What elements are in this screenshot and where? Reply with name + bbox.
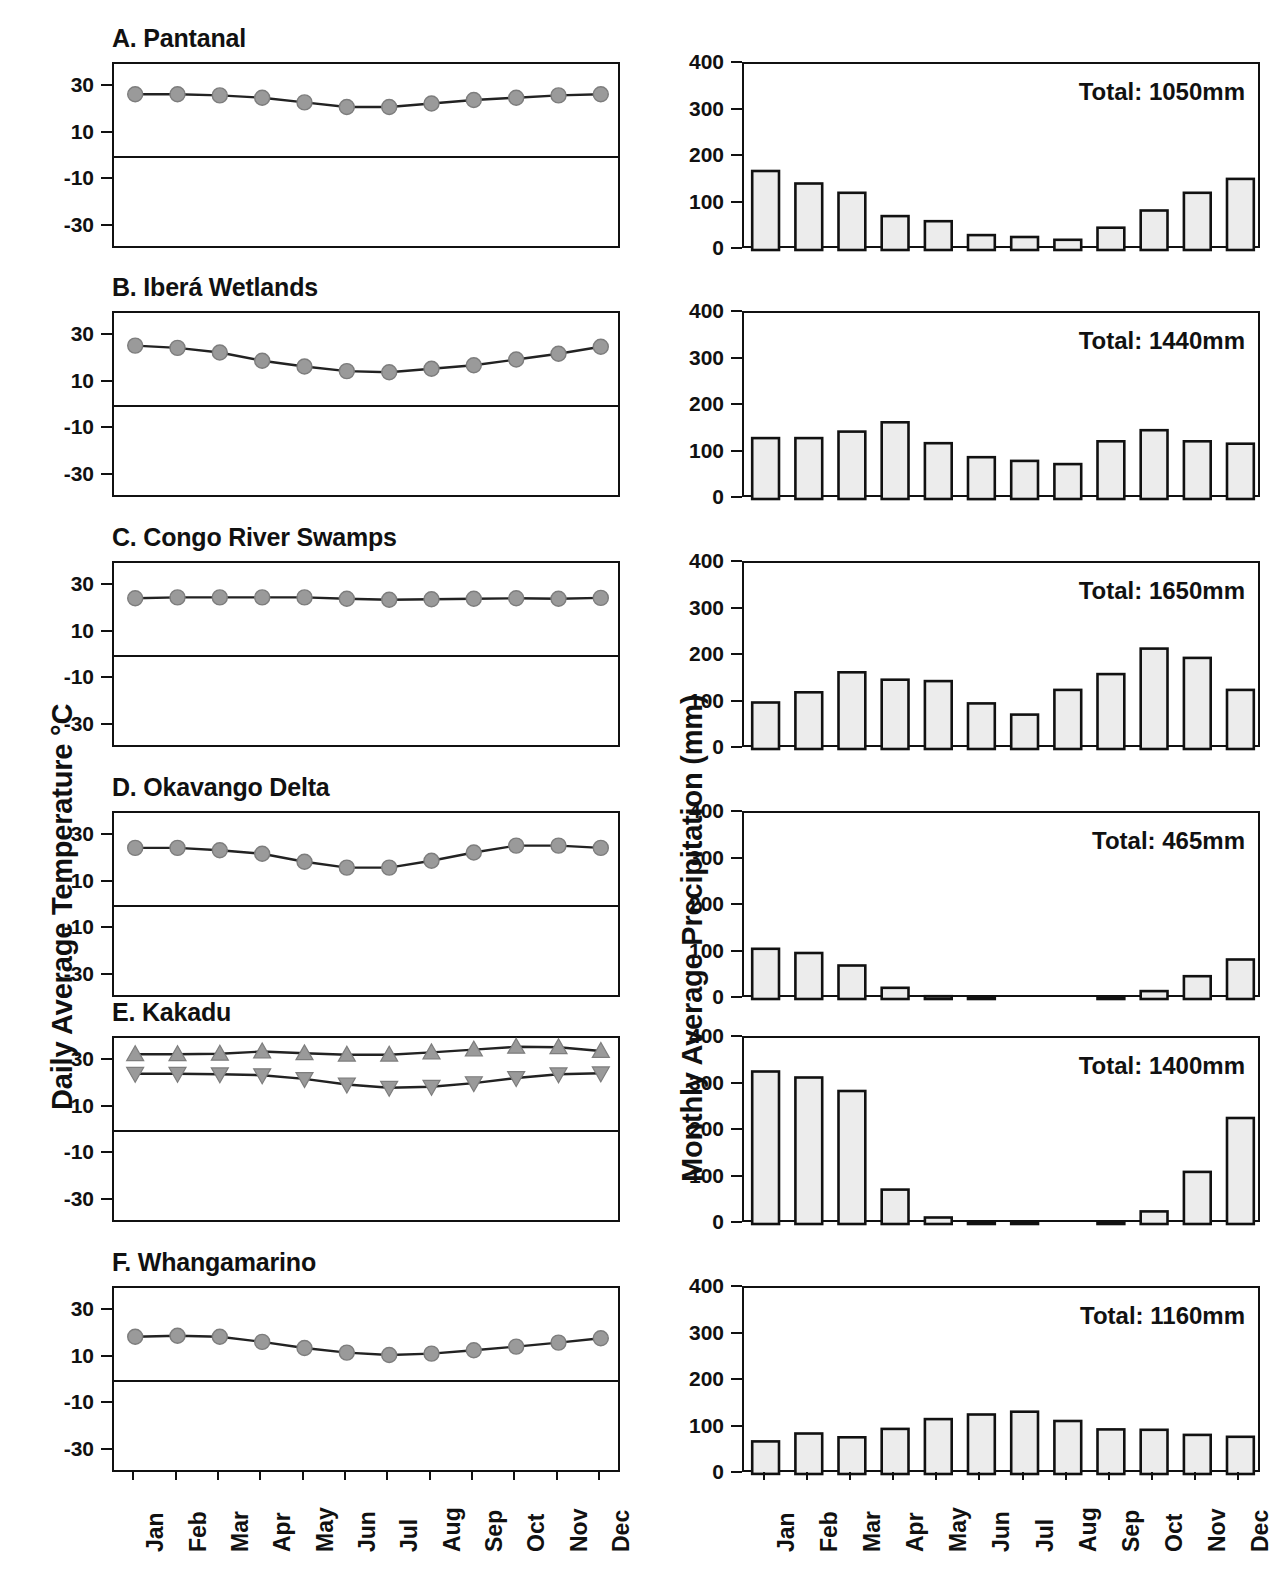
precipitation-bar — [1054, 690, 1081, 749]
precipitation-bar — [839, 1437, 866, 1474]
precipitation-ytick-label-c-3: 100 — [642, 689, 724, 713]
precipitation-ytick-label-a-3: 100 — [642, 190, 724, 214]
precipitation-ytick-b-4 — [731, 496, 742, 498]
precipitation-xtick-9 — [1151, 1472, 1153, 1480]
precipitation-ytick-label-a-1: 300 — [642, 97, 724, 121]
precipitation-bar — [752, 703, 779, 750]
temperature-marker — [509, 591, 524, 606]
precipitation-ytick-label-b-0: 400 — [642, 299, 724, 323]
precipitation-ytick-label-c-4: 0 — [642, 735, 724, 759]
temperature-ytick-label-f-1: 10 — [22, 1344, 94, 1368]
precipitation-xtick-10 — [1194, 1472, 1196, 1480]
precipitation-bar — [1011, 1222, 1038, 1225]
temperature-marker — [466, 93, 481, 108]
precipitation-ytick-label-b-1: 300 — [642, 346, 724, 370]
temperature-marker — [339, 100, 354, 115]
panel-title-e: E. Kakadu — [112, 998, 231, 1027]
precipitation-bar — [1054, 240, 1081, 250]
precipitation-ytick-f-2 — [731, 1378, 742, 1380]
temperature-marker — [212, 590, 227, 605]
temperature-xtick-4 — [302, 1472, 304, 1480]
temperature-plot-box-a — [112, 62, 620, 248]
precipitation-month-label-dec: Dec — [1247, 1510, 1274, 1552]
temperature-xtick-3 — [259, 1472, 261, 1480]
temperature-marker — [551, 591, 566, 606]
precipitation-bar — [1011, 715, 1038, 749]
precipitation-bar — [1141, 991, 1168, 999]
precipitation-bar — [752, 1441, 779, 1474]
temperature-marker — [593, 590, 608, 605]
temperature-xtick-1 — [175, 1472, 177, 1480]
panel-title-b: B. Iberá Wetlands — [112, 273, 318, 302]
precipitation-ytick-label-e-2: 200 — [642, 1117, 724, 1141]
temperature-month-label-mar: Mar — [227, 1511, 254, 1552]
temperature-plot-box-d — [112, 811, 620, 997]
temperature-marker — [382, 592, 397, 607]
precipitation-bar — [968, 1415, 995, 1475]
precipitation-ytick-label-a-4: 0 — [642, 236, 724, 260]
temperature-marker — [297, 854, 312, 869]
precipitation-bar — [795, 953, 822, 999]
temperature-month-label-feb: Feb — [185, 1511, 212, 1552]
precipitation-ytick-a-4 — [731, 247, 742, 249]
precipitation-month-label-apr: Apr — [902, 1512, 929, 1552]
temperature-ytick-label-b-2: -10 — [22, 415, 94, 439]
temperature-ytick-d-2 — [101, 926, 112, 928]
temperature-ytick-label-d-3: -30 — [22, 962, 94, 986]
precipitation-bar — [1141, 1430, 1168, 1474]
precipitation-ytick-c-0 — [731, 560, 742, 562]
precipitation-ytick-a-3 — [731, 201, 742, 203]
temperature-plot-box-b — [112, 311, 620, 497]
precipitation-xtick-0 — [763, 1472, 765, 1480]
temperature-marker — [170, 87, 185, 102]
temperature-marker — [466, 845, 481, 860]
precipitation-bar — [925, 443, 952, 499]
temperature-ytick-label-f-0: 30 — [22, 1297, 94, 1321]
precipitation-bar — [1098, 441, 1125, 499]
temperature-marker — [509, 838, 524, 853]
precipitation-total-label-d: Total: 465mm — [1010, 827, 1245, 855]
temperature-marker — [255, 590, 270, 605]
precipitation-bar — [752, 949, 779, 999]
temperature-ytick-label-e-0: 30 — [22, 1047, 94, 1071]
temperature-ytick-label-e-2: -10 — [22, 1140, 94, 1164]
precipitation-bar — [752, 1072, 779, 1225]
precipitation-bar — [1184, 976, 1211, 999]
temperature-ytick-d-0 — [101, 833, 112, 835]
temperature-marker — [255, 846, 270, 861]
precipitation-bar — [795, 184, 822, 251]
precipitation-bar — [839, 1091, 866, 1224]
precipitation-total-label-a: Total: 1050mm — [1010, 78, 1245, 106]
precipitation-bar — [1098, 674, 1125, 749]
temperature-marker — [128, 591, 143, 606]
temperature-marker — [466, 591, 481, 606]
temperature-xtick-5 — [344, 1472, 346, 1480]
temperature-series-c — [114, 563, 622, 749]
temperature-ytick-b-2 — [101, 426, 112, 428]
temperature-ytick-a-0 — [101, 84, 112, 86]
temperature-ytick-e-2 — [101, 1151, 112, 1153]
temperature-marker — [424, 96, 439, 111]
precipitation-ytick-label-e-3: 100 — [642, 1164, 724, 1188]
precipitation-ytick-label-a-2: 200 — [642, 143, 724, 167]
temperature-month-label-sep: Sep — [481, 1510, 508, 1552]
precipitation-ytick-label-e-4: 0 — [642, 1210, 724, 1234]
precipitation-ytick-label-d-1: 300 — [642, 846, 724, 870]
temperature-ytick-label-a-0: 30 — [22, 73, 94, 97]
temperature-marker — [339, 364, 354, 379]
precipitation-ytick-e-1 — [731, 1082, 742, 1084]
precipitation-ytick-d-3 — [731, 950, 742, 952]
precipitation-bar — [1184, 441, 1211, 499]
precipitation-bar — [1141, 430, 1168, 499]
temperature-ytick-e-1 — [101, 1105, 112, 1107]
precipitation-xtick-2 — [849, 1472, 851, 1480]
temperature-ytick-b-3 — [101, 473, 112, 475]
panel-title-d: D. Okavango Delta — [112, 773, 330, 802]
temperature-marker — [382, 100, 397, 115]
precipitation-total-label-c: Total: 1650mm — [1010, 577, 1245, 605]
precipitation-bar — [1098, 1429, 1125, 1474]
precipitation-ytick-b-3 — [731, 450, 742, 452]
precipitation-ytick-c-3 — [731, 700, 742, 702]
temperature-ytick-c-3 — [101, 723, 112, 725]
precipitation-bar — [795, 1434, 822, 1475]
